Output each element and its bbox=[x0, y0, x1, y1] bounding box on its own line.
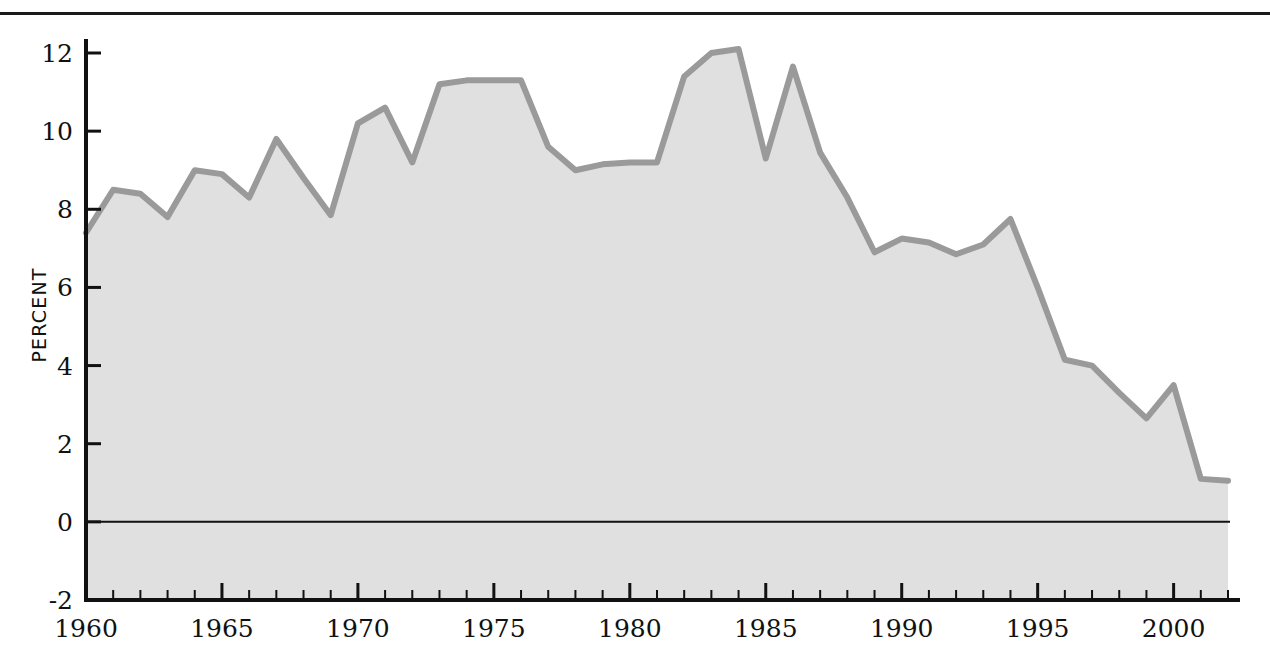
x-tick-label: 2000 bbox=[1142, 614, 1206, 643]
x-tick-label: 1975 bbox=[462, 614, 526, 643]
y-axis-title: PERCENT bbox=[28, 267, 50, 362]
y-tick-label: -2 bbox=[49, 586, 73, 615]
x-tick-label: 1995 bbox=[1006, 614, 1070, 643]
x-tick-label: 1990 bbox=[870, 614, 934, 643]
y-tick-label: 0 bbox=[57, 508, 73, 537]
y-tick-label: 2 bbox=[57, 430, 73, 459]
y-tick-label: 4 bbox=[57, 352, 73, 381]
y-tick-label: 6 bbox=[57, 273, 73, 302]
chart-plot-area: -2024681012 1960196519701975198019851990… bbox=[0, 0, 1270, 656]
x-tick-label: 1970 bbox=[326, 614, 390, 643]
chart-figure: -2024681012 1960196519701975198019851990… bbox=[0, 0, 1270, 656]
y-tick-label: 10 bbox=[41, 117, 73, 146]
x-tick-label: 1980 bbox=[598, 614, 662, 643]
y-tick-label: 12 bbox=[41, 39, 73, 68]
y-tick-label: 8 bbox=[57, 195, 73, 224]
area-fill bbox=[86, 49, 1228, 600]
x-axis-tick-labels: 196019651970197519801985199019952000 bbox=[54, 614, 1205, 643]
x-tick-label: 1965 bbox=[190, 614, 254, 643]
svg-text:PERCENT: PERCENT bbox=[28, 267, 50, 362]
x-tick-label: 1985 bbox=[734, 614, 798, 643]
x-tick-label: 1960 bbox=[54, 614, 118, 643]
